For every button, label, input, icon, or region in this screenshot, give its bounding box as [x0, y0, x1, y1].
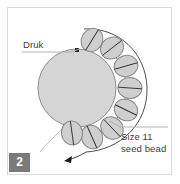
druk-label: Druk: [23, 39, 43, 50]
seed-bead-label-line1: Size 11: [121, 131, 153, 142]
seed-bead: [117, 77, 142, 100]
figure-panel: Druk Size 11 seed bead 2: [0, 0, 180, 184]
seed-bead-label-line2: seed bead: [121, 143, 166, 154]
thread-arrow-tip-icon: [64, 156, 72, 163]
step-number-badge: 2: [9, 153, 30, 172]
druk-bead: [38, 49, 116, 127]
